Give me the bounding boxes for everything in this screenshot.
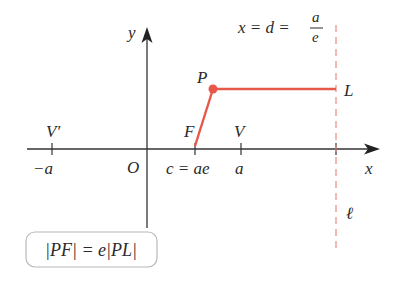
directrix-frac-den: e (312, 29, 319, 45)
formula-text: |PF| = e|PL| (45, 240, 137, 260)
vertex-right-label: V (234, 122, 247, 141)
x-axis-label: x (364, 159, 373, 178)
diagram-canvas: y x O V′ −a F c = ae V a P L x = d = a e… (0, 0, 402, 291)
origin-label: O (127, 158, 139, 177)
point-p-label: P (196, 68, 207, 87)
vertex-left-coord: −a (33, 159, 53, 178)
focus-coord: c = ae (166, 159, 210, 178)
vertex-left-label: V′ (46, 122, 60, 141)
directrix-equation: x = d = (237, 18, 290, 37)
directrix-frac-num: a (312, 9, 320, 25)
point-l-label: L (343, 81, 353, 100)
directrix-line-label: ℓ (346, 204, 353, 223)
vertex-right-coord: a (235, 159, 244, 178)
segment-pf (195, 89, 213, 146)
point-p-dot (209, 85, 218, 94)
focus-label: F (183, 122, 195, 141)
y-axis-label: y (126, 23, 136, 42)
